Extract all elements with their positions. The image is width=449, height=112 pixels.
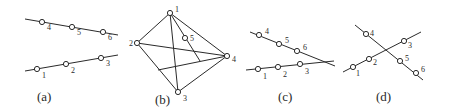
node-circle-icon: [401, 38, 406, 43]
node-label: 2: [129, 39, 133, 48]
edge-line: [137, 43, 227, 56]
node-label: 5: [405, 54, 409, 63]
node-circle-icon: [134, 40, 139, 45]
node-label: 4: [370, 29, 374, 38]
node-label: 1: [175, 5, 179, 14]
node-circle-icon: [275, 64, 280, 69]
node-label: 5: [285, 36, 289, 45]
node-label: 6: [303, 43, 307, 52]
edge-line: [250, 32, 335, 66]
node-label: 6: [421, 65, 425, 74]
node-label: 2: [373, 58, 377, 67]
node-circle-icon: [297, 61, 302, 66]
panel-caption: (d): [376, 89, 391, 104]
node-circle-icon: [100, 29, 105, 34]
node-label: 3: [408, 41, 412, 50]
node-label: 1: [263, 72, 267, 81]
node-label: 3: [106, 59, 110, 68]
node-label: 6: [108, 33, 112, 42]
node-label: 4: [265, 27, 269, 36]
edge-line: [170, 13, 178, 92]
node-circle-icon: [224, 53, 229, 58]
node-label: 5: [190, 34, 194, 43]
panel-d: 456123(d): [343, 25, 425, 104]
node-circle-icon: [182, 35, 187, 40]
node-label: 3: [183, 94, 187, 103]
node-label: 5: [77, 28, 81, 37]
panel-caption: (c): [278, 89, 292, 104]
node-circle-icon: [294, 48, 299, 53]
panel-b: 12345(b): [129, 5, 236, 107]
node-label: 4: [232, 55, 236, 64]
node-label: 2: [283, 70, 287, 79]
node-circle-icon: [256, 32, 261, 37]
node-circle-icon: [69, 24, 74, 29]
node-circle-icon: [363, 31, 368, 36]
node-label: 2: [71, 66, 75, 75]
panel-caption: (a): [37, 89, 51, 104]
node-label: 1: [356, 69, 360, 78]
node-label: 1: [42, 71, 46, 80]
node-circle-icon: [350, 64, 355, 69]
node-label: 4: [47, 23, 51, 32]
node-circle-icon: [397, 58, 402, 63]
node-circle-icon: [63, 61, 68, 66]
node-circle-icon: [276, 41, 281, 46]
edge-line: [137, 13, 170, 43]
node-circle-icon: [413, 70, 418, 75]
node-circle-icon: [34, 66, 39, 71]
panel-caption: (b): [155, 92, 170, 107]
panel-c: 456123(c): [246, 27, 335, 104]
node-circle-icon: [175, 89, 180, 94]
node-circle-icon: [167, 10, 172, 15]
diagram-canvas: 456123(a) 12345(b) 456123(c) 456123(d): [0, 0, 449, 112]
node-circle-icon: [39, 19, 44, 24]
edge-line: [170, 13, 227, 56]
node-circle-icon: [98, 55, 103, 60]
node-circle-icon: [255, 66, 260, 71]
panel-a: 456123(a): [25, 19, 118, 104]
node-label: 3: [305, 67, 309, 76]
node-circle-icon: [366, 56, 371, 61]
